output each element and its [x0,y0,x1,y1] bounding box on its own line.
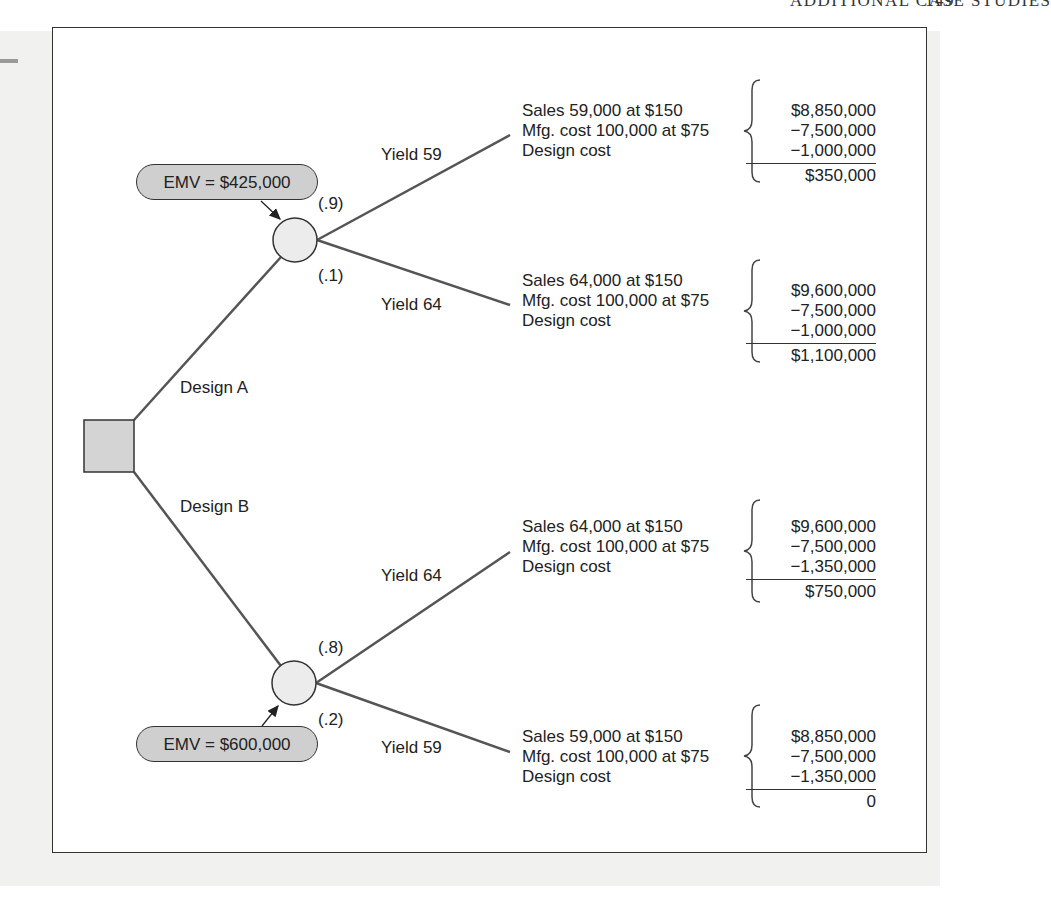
payoff-calc-b2: $8,850,000 −7,500,000 −1,350,000 0 [746,727,876,812]
prob-a-bottom: (.1) [318,266,344,286]
design-b-label: Design B [180,497,249,517]
chance-node-b [272,661,316,705]
payoff-result: $350,000 [746,166,876,186]
yield-label-b2: Yield 59 [381,738,442,758]
emv-badge-design-b: EMV = $600,000 [136,726,318,762]
decision-node-square [84,420,134,472]
yield-label-b1: Yield 64 [381,566,442,586]
yield-label-a2: Yield 64 [381,295,442,315]
payoff-result: $750,000 [746,582,876,602]
payoff-calc-a2: $9,600,000 −7,500,000 −1,000,000 $1,100,… [746,281,876,366]
outcome-desc-b2: Sales 59,000 at $150 Mfg. cost 100,000 a… [522,727,709,787]
prob-a-top: (.9) [318,194,344,214]
yield-label-a1: Yield 59 [381,145,442,165]
outcome-desc-a1: Sales 59,000 at $150 Mfg. cost 100,000 a… [522,101,709,161]
outcome-desc-a2: Sales 64,000 at $150 Mfg. cost 100,000 a… [522,271,709,331]
payoff-result: $1,100,000 [746,346,876,366]
design-a-label: Design A [180,378,248,398]
outcome-desc-b1: Sales 64,000 at $150 Mfg. cost 100,000 a… [522,517,709,577]
prob-b-top: (.8) [318,638,344,658]
chance-node-a [273,218,317,262]
payoff-calc-a1: $8,850,000 −7,500,000 −1,000,000 $350,00… [746,101,876,186]
emv-badge-design-a: EMV = $425,000 [136,164,318,200]
payoff-calc-b1: $9,600,000 −7,500,000 −1,350,000 $750,00… [746,517,876,602]
payoff-result: 0 [746,792,876,812]
prob-b-bottom: (.2) [318,710,344,730]
